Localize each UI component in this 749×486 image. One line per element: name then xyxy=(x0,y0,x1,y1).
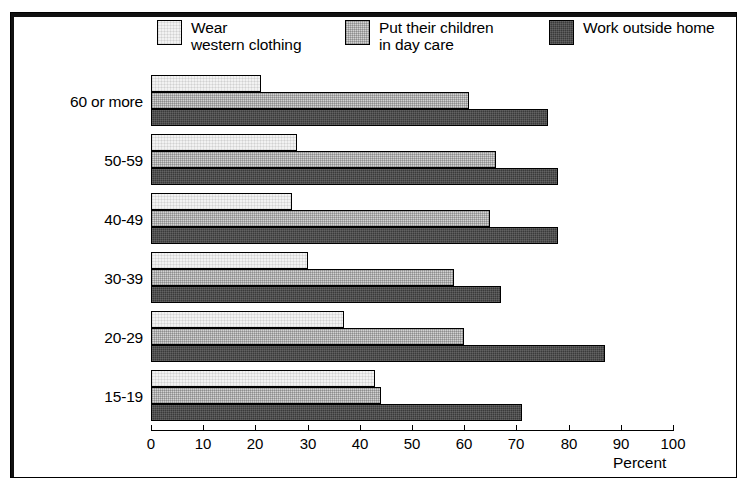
x-axis-tick-label: 0 xyxy=(131,435,171,452)
x-axis-tick xyxy=(360,425,361,430)
bar-light xyxy=(151,193,292,210)
bar-light xyxy=(151,134,297,151)
category-label: 30-39 xyxy=(11,271,143,287)
bar-dark xyxy=(151,404,522,421)
bar-dark xyxy=(151,227,558,244)
x-axis-tick-label: 70 xyxy=(496,435,536,452)
x-axis-tick xyxy=(203,425,204,430)
bar-dark xyxy=(151,109,548,126)
x-axis-line xyxy=(151,430,674,431)
bar-medium xyxy=(151,92,469,109)
chart-plot-area: 60 or more50-5940-4930-3920-2915-1901020… xyxy=(11,13,736,477)
x-axis-tick xyxy=(673,425,674,430)
x-axis-tick-label: 50 xyxy=(392,435,432,452)
bar-dark xyxy=(151,286,501,303)
x-axis-tick xyxy=(621,425,622,430)
x-axis-tick-label: 40 xyxy=(340,435,380,452)
category-label: 15-19 xyxy=(11,389,143,405)
x-axis-tick xyxy=(516,425,517,430)
x-axis-tick-label: 80 xyxy=(549,435,589,452)
x-axis-tick-label: 10 xyxy=(183,435,223,452)
x-axis-tick xyxy=(412,425,413,430)
bar-light xyxy=(151,75,261,92)
bar-medium xyxy=(151,151,496,168)
x-axis-tick-label: 90 xyxy=(601,435,641,452)
x-axis-tick-label: 20 xyxy=(235,435,275,452)
category-label: 50-59 xyxy=(11,153,143,169)
x-axis-tick xyxy=(569,425,570,430)
bar-light xyxy=(151,311,344,328)
bar-medium xyxy=(151,328,464,345)
bar-medium xyxy=(151,210,490,227)
x-axis-tick xyxy=(308,425,309,430)
bar-medium xyxy=(151,387,381,404)
x-axis-title: Percent xyxy=(613,454,666,471)
bar-dark xyxy=(151,345,605,362)
bar-light xyxy=(151,370,375,387)
category-label: 60 or more xyxy=(11,94,143,110)
x-axis-tick xyxy=(255,425,256,430)
chart-frame: Wear western clothingPut their children … xyxy=(10,12,737,478)
x-axis-tick-label: 30 xyxy=(288,435,328,452)
bar-light xyxy=(151,252,308,269)
bar-dark xyxy=(151,168,558,185)
bar-medium xyxy=(151,269,454,286)
x-axis-tick-label: 60 xyxy=(444,435,484,452)
x-axis-tick xyxy=(464,425,465,430)
x-axis-tick xyxy=(151,425,152,430)
category-label: 20-29 xyxy=(11,330,143,346)
x-axis-tick-label: 100 xyxy=(653,435,693,452)
category-label: 40-49 xyxy=(11,212,143,228)
